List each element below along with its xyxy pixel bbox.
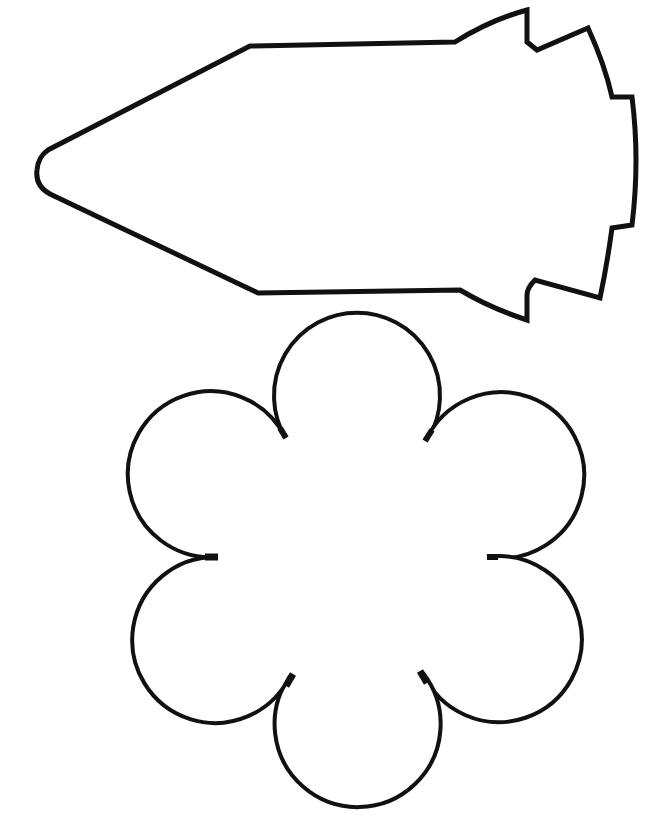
coloring-page [0,0,654,826]
flower-petal-upper-right [426,392,584,558]
flower-shape [128,313,584,807]
flower-petal-lower-right [423,556,582,722]
flower-petal-bottom [275,673,441,807]
flower-petal-lower-left [132,557,290,723]
rocket-shape [37,10,636,320]
rocket-outline [37,10,636,320]
template-sheet [0,0,654,826]
flower-petal-top [274,313,440,437]
flower-petal-upper-left [128,391,285,557]
